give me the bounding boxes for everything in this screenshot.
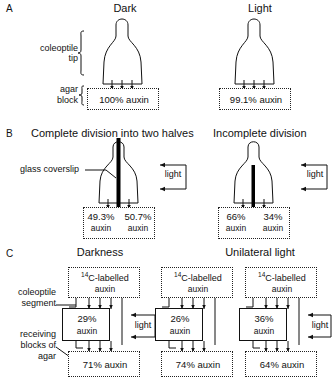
donor-block-darkness-line2: auxin — [69, 285, 141, 294]
segment-unilateral-2-value: 36% — [240, 314, 288, 324]
panel-letter-c: C — [6, 249, 13, 260]
panel-c-heading-unilateral: Unilateral light — [200, 247, 320, 259]
panel-a-heading-light: Light — [205, 3, 315, 15]
panel-c-heading-darkness: Darkness — [45, 247, 155, 259]
brace-coleoptile-tip — [78, 31, 84, 75]
agar-block-complete-division: 49.3% auxin 50.7% auxin — [83, 207, 155, 239]
panel-b-heading-complete: Complete division into two halves — [31, 128, 194, 140]
coleoptile-segment-unilateral-2: 36% auxin — [239, 308, 287, 341]
receiving-block-darkness: 71% auxin — [68, 351, 140, 377]
segment-unilateral-2-unit: auxin — [240, 327, 288, 336]
agar-incomplete-right-value: 34% — [256, 212, 290, 222]
label-coleoptile-segment-line1: coleoptile — [0, 288, 56, 297]
segment-unilateral-1-value: 26% — [156, 314, 204, 324]
agar-block-dark: 100% auxin — [87, 88, 159, 110]
label-light-panel-c-unilateral: light — [299, 321, 335, 330]
donor-block-unilateral-1-line2: auxin — [162, 285, 234, 294]
coleoptile-segment-unilateral-1: 26% auxin — [155, 308, 203, 341]
figure-auxin-distribution: A Dark Light coleoptile tip agar block 1… — [0, 0, 335, 387]
agar-block-light: 99.1% auxin — [219, 88, 291, 110]
panel-letter-a: A — [6, 4, 13, 15]
brace-agar-block — [79, 86, 84, 105]
receiving-block-unilateral-2: 64% auxin — [245, 351, 317, 377]
donor-block-unilateral-2-line1: 14C-labelled — [246, 272, 318, 283]
label-receiving-blocks-line1: receiving — [0, 330, 56, 339]
agar-complete-right-value: 50.7% — [121, 212, 155, 222]
label-coleoptile-tip-line1: coleoptile — [4, 44, 78, 53]
panel-letter-b: B — [6, 129, 13, 140]
donor-block-unilateral-2-line2: auxin — [246, 285, 318, 294]
agar-complete-left-unit: auxin — [84, 224, 118, 233]
donor-block-unilateral-1: 14C-labelled auxin — [161, 267, 233, 298]
coleoptile-segment-darkness: 29% auxin — [62, 308, 110, 341]
label-light-incomplete: light — [294, 170, 335, 179]
coleoptile-tip-dark — [103, 19, 142, 84]
agar-incomplete-right-unit: auxin — [256, 224, 290, 233]
label-coleoptile-segment-line2: segment — [0, 299, 56, 308]
donor-block-unilateral-2: 14C-labelled auxin — [245, 267, 317, 298]
donor-rest: C-labelled — [181, 273, 222, 283]
label-receiving-blocks-line3: agar — [0, 352, 56, 361]
donor-rest: C-labelled — [88, 273, 129, 283]
panel-a-heading-dark: Dark — [70, 3, 180, 15]
label-receiving-blocks-line2: blocks of — [0, 341, 56, 350]
receiving-darkness-value: 71% auxin — [69, 360, 141, 370]
coleoptile-tip-light — [235, 19, 274, 84]
label-glass-coverslip: glass coverslip — [20, 165, 79, 174]
label-light-complete: light — [152, 170, 194, 179]
donor-block-darkness-line1: 14C-labelled — [69, 272, 141, 283]
segment-darkness-value: 29% — [63, 314, 111, 324]
donor-rest: C-labelled — [265, 273, 306, 283]
panel-b-heading-incomplete: Incomplete division — [213, 128, 307, 140]
agar-incomplete-left-unit: auxin — [219, 224, 253, 233]
agar-complete-left-value: 49.3% — [84, 212, 118, 222]
agar-block-light-value: 99.1% auxin — [220, 95, 292, 105]
segment-darkness-unit: auxin — [63, 327, 111, 336]
label-coleoptile-tip-line2: tip — [4, 54, 78, 63]
receiving-unilateral-1-value: 74% auxin — [162, 360, 234, 370]
segment-unilateral-1-unit: auxin — [156, 327, 204, 336]
label-agar-block-line1: agar — [4, 85, 78, 94]
agar-incomplete-left-value: 66% — [219, 212, 253, 222]
agar-block-dark-value: 100% auxin — [88, 95, 160, 105]
donor-block-unilateral-1-line1: 14C-labelled — [162, 272, 234, 283]
label-agar-block-line2: block — [4, 96, 78, 105]
agar-block-incomplete-division: 66% auxin 34% auxin — [218, 207, 290, 239]
receiving-block-unilateral-1: 74% auxin — [161, 351, 233, 377]
receiving-unilateral-2-value: 64% auxin — [246, 360, 318, 370]
donor-block-darkness: 14C-labelled auxin — [68, 267, 140, 298]
agar-complete-right-unit: auxin — [121, 224, 155, 233]
